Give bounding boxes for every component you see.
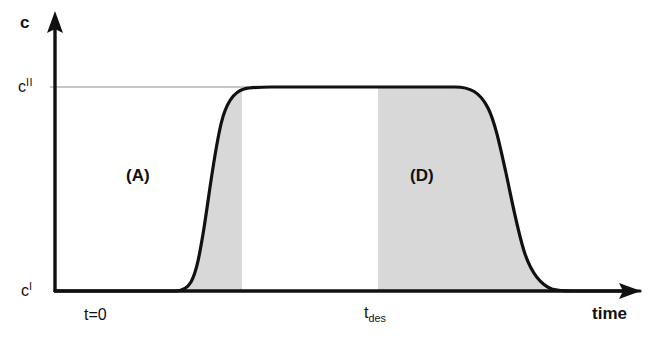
region-d-shading — [378, 86, 578, 292]
chart-canvas — [0, 0, 663, 352]
c-low-superscript: I — [29, 280, 32, 292]
c-low-base: c — [21, 282, 29, 299]
y-tick-label-c-high: cII — [18, 79, 33, 95]
region-label-a: (A) — [126, 167, 150, 184]
x-tick-label-t-des: tdes — [364, 305, 386, 321]
c-high-superscript: II — [26, 76, 33, 88]
y-axis-title: c — [20, 14, 29, 31]
y-tick-label-c-low: cI — [21, 283, 32, 299]
concentration-time-chart: c time cII cI t=0 tdes (A) (D) — [0, 0, 663, 352]
concentration-curve — [55, 87, 640, 291]
x-tick-label-t-zero: t=0 — [84, 307, 107, 323]
region-label-d: (D) — [410, 167, 434, 184]
t-des-subscript: des — [368, 312, 386, 324]
c-high-base: c — [18, 78, 26, 95]
x-axis-title: time — [592, 305, 627, 322]
